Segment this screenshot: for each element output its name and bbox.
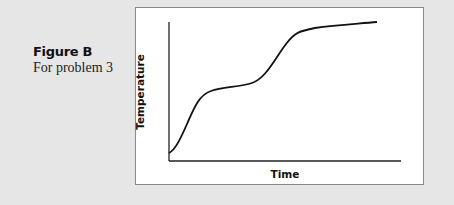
y-axis-label: Temperature: [134, 54, 146, 130]
chart-plot: [0, 0, 454, 205]
x-axis-label: Time: [271, 168, 300, 180]
temperature-curve: [169, 22, 377, 153]
